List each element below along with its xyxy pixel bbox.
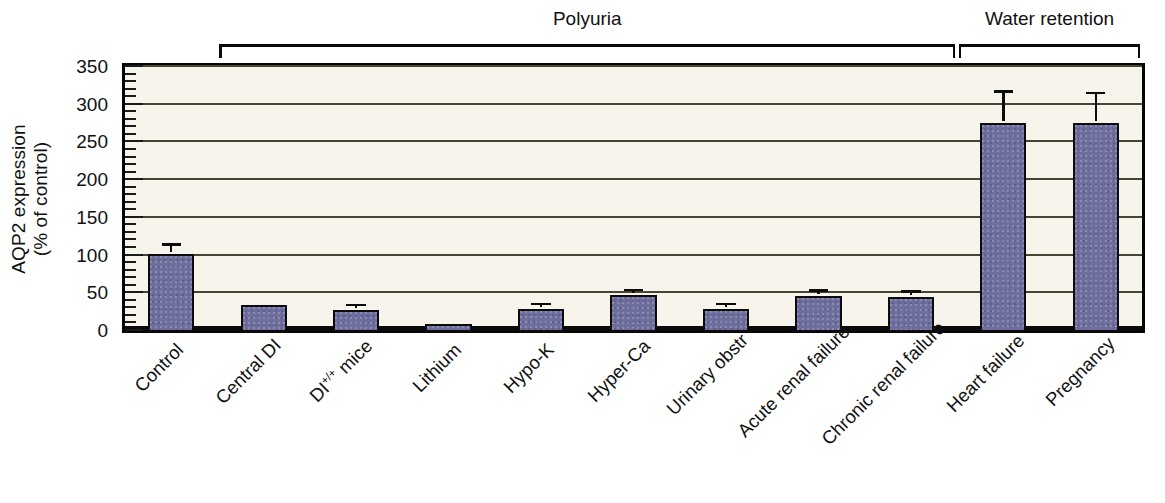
gridline bbox=[125, 65, 1142, 67]
error-bar-cap bbox=[346, 304, 365, 307]
error-bar-stem bbox=[1002, 90, 1005, 121]
bar bbox=[1073, 123, 1119, 332]
y-axis-major-tick bbox=[125, 254, 143, 256]
y-axis-minor-tick bbox=[125, 125, 136, 127]
y-axis-minor-tick bbox=[125, 299, 136, 301]
x-axis-tick-labels: ControlCentral DIDI+/+ miceLithiumHypo-K… bbox=[122, 338, 1145, 498]
x-axis-tick-label: Control bbox=[131, 340, 187, 396]
y-axis-minor-tick bbox=[125, 208, 136, 210]
y-axis-minor-tick bbox=[125, 193, 136, 195]
y-axis-title-line2: (% of control) bbox=[30, 124, 52, 273]
error-bar-cap bbox=[1086, 92, 1105, 95]
y-axis-minor-tick bbox=[125, 321, 136, 323]
error-bar-cap bbox=[809, 289, 828, 292]
y-axis-minor-tick bbox=[125, 110, 136, 112]
plot-area bbox=[122, 63, 1145, 333]
y-axis-minor-tick bbox=[125, 231, 136, 233]
y-axis-minor-tick bbox=[125, 186, 136, 188]
y-axis-major-tick bbox=[125, 329, 143, 331]
bar bbox=[518, 309, 564, 332]
bar bbox=[980, 123, 1026, 332]
error-bar-cap bbox=[994, 90, 1013, 93]
error-bar-stem bbox=[1095, 92, 1098, 121]
error-bar-cap bbox=[624, 289, 643, 292]
y-axis-minor-tick bbox=[125, 118, 136, 120]
group-bracket-label: Water retention bbox=[985, 8, 1114, 29]
y-axis-major-tick bbox=[125, 216, 143, 218]
y-axis-minor-tick bbox=[125, 171, 136, 173]
x-axis-tick-label: Hyper-Ca bbox=[584, 336, 654, 406]
y-axis-tick-label: 350 bbox=[76, 57, 108, 76]
group-bracket-tick bbox=[1138, 44, 1141, 58]
y-axis-minor-tick bbox=[125, 246, 136, 248]
y-axis-tick-label: 150 bbox=[76, 207, 108, 226]
x-axis-tick-label: Hypo-K bbox=[500, 339, 558, 397]
aqp2-expression-bar-chart: PolyuriaWater retention AQP2 expression … bbox=[0, 0, 1165, 503]
group-bracket-line bbox=[959, 44, 1140, 47]
y-axis-major-tick bbox=[125, 103, 143, 105]
x-axis-tick-label: Heart failure bbox=[943, 331, 1028, 416]
y-axis-minor-tick bbox=[125, 276, 136, 278]
x-axis-tick-label: Central DI bbox=[212, 335, 285, 408]
bar bbox=[425, 324, 471, 332]
y-axis-tick-label: 50 bbox=[87, 283, 108, 302]
error-bar-cap bbox=[901, 290, 920, 293]
y-axis-minor-tick bbox=[125, 88, 136, 90]
group-bracket-tick bbox=[959, 44, 962, 58]
y-axis-major-tick bbox=[125, 178, 143, 180]
group-bracket-tick bbox=[219, 44, 222, 58]
y-axis-minor-tick bbox=[125, 261, 136, 263]
bar bbox=[610, 295, 656, 332]
bar bbox=[241, 305, 287, 332]
y-axis-minor-tick bbox=[125, 163, 136, 165]
bar bbox=[333, 310, 379, 332]
y-axis-minor-tick bbox=[125, 156, 136, 158]
y-axis-minor-tick bbox=[125, 201, 136, 203]
y-axis-minor-tick bbox=[125, 314, 136, 316]
group-bracket-line bbox=[219, 44, 955, 47]
error-bar-cap bbox=[162, 243, 181, 246]
y-axis-minor-tick bbox=[125, 95, 136, 97]
x-axis-tick-label: Lithium bbox=[409, 340, 465, 396]
y-axis-minor-tick bbox=[125, 284, 136, 286]
y-axis-tick-label: 0 bbox=[97, 321, 108, 340]
y-axis-minor-tick bbox=[125, 80, 136, 82]
bar bbox=[148, 254, 194, 332]
x-axis-tick-label: DI+/+ mice bbox=[306, 336, 376, 406]
x-axis-tick-label: Pregnancy bbox=[1042, 334, 1119, 411]
y-axis-minor-tick bbox=[125, 238, 136, 240]
group-brackets: PolyuriaWater retention bbox=[0, 0, 1165, 63]
y-axis-minor-tick bbox=[125, 148, 136, 150]
y-axis-minor-tick bbox=[125, 73, 136, 75]
y-axis-minor-tick bbox=[125, 133, 136, 135]
y-axis-minor-tick bbox=[125, 306, 136, 308]
error-bar-cap bbox=[531, 303, 550, 306]
y-axis-tick-label: 250 bbox=[76, 132, 108, 151]
bar bbox=[703, 309, 749, 332]
y-axis-tick-label: 200 bbox=[76, 170, 108, 189]
group-bracket-label: Polyuria bbox=[553, 8, 622, 29]
x-axis-tick-label: Urinary obstr bbox=[663, 330, 752, 419]
group-bracket-tick bbox=[953, 44, 956, 58]
y-axis-title: AQP2 expression (% of control) bbox=[8, 63, 52, 335]
y-axis-tick-labels: 050100150200250300350 bbox=[52, 63, 114, 335]
y-axis-major-tick bbox=[125, 140, 143, 142]
y-axis-title-line1: AQP2 expression bbox=[8, 124, 30, 273]
y-axis-major-tick bbox=[125, 65, 143, 67]
gridline bbox=[125, 103, 1142, 105]
y-axis-minor-tick bbox=[125, 269, 136, 271]
error-bar-cap bbox=[716, 303, 735, 306]
y-axis-minor-tick bbox=[125, 223, 136, 225]
y-axis-tick-label: 100 bbox=[76, 245, 108, 264]
plot-inner bbox=[125, 66, 1142, 330]
y-axis-major-tick bbox=[125, 291, 143, 293]
y-axis-tick-label: 300 bbox=[76, 94, 108, 113]
